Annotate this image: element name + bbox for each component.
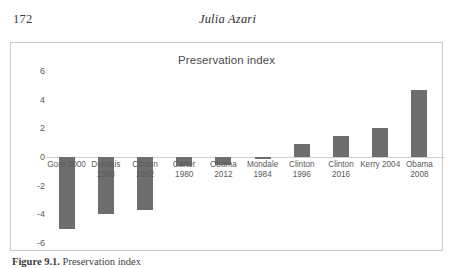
y-axis: 6420-2-4-6: [21, 71, 45, 243]
bar-group: Kerry 2004: [361, 71, 400, 243]
figure-frame: Preservation index 6420-2-4-6 Gore 2000D…: [10, 42, 443, 251]
plot-area: 6420-2-4-6 Gore 2000Dukakis 1988Clinton …: [47, 71, 439, 243]
running-head-author: Julia Azari: [0, 12, 455, 27]
bar-group: Mondale 1984: [243, 71, 282, 243]
bar-group: Dukakis 1988: [86, 71, 125, 243]
bar-series: Gore 2000Dukakis 1988Clinton 1992Carter …: [47, 71, 439, 243]
y-axis-tick: -4: [37, 209, 45, 219]
figure-caption-label: Figure 9.1.: [12, 256, 60, 267]
y-axis-tick: -6: [37, 238, 45, 248]
bar-group: Obama 2008: [400, 71, 439, 243]
bar: [294, 144, 310, 157]
chart-title: Preservation index: [11, 54, 442, 66]
y-axis-tick: -2: [37, 181, 45, 191]
bar-group: Clinton 1992: [125, 71, 164, 243]
x-axis-category-label: Obama 2008: [392, 160, 446, 180]
bar-group: Obama 2012: [204, 71, 243, 243]
bar: [255, 157, 271, 159]
y-axis-tick: 6: [40, 66, 45, 76]
y-axis-tick: 2: [40, 123, 45, 133]
page-header: 172 Julia Azari: [0, 0, 455, 34]
bar: [411, 90, 427, 157]
bar-group: Gore 2000: [47, 71, 86, 243]
bar: [333, 136, 349, 158]
figure-caption: Figure 9.1. Preservation index: [12, 256, 442, 267]
bar-group: Clinton 1996: [282, 71, 321, 243]
y-axis-tick: 4: [40, 95, 45, 105]
figure-caption-text: Preservation index: [60, 256, 141, 267]
bar-group: Clinton 2016: [321, 71, 360, 243]
bar: [372, 128, 388, 157]
bar-group: Carter 1980: [165, 71, 204, 243]
